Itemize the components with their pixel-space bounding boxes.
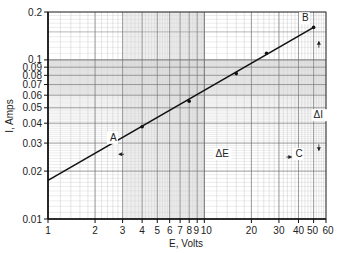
- x-tick-label: 10: [201, 225, 213, 236]
- y-tick-label: 0.06: [23, 90, 43, 101]
- y-axis-ticks: 0.010.020.030.040.050.060.070.080.090.10…: [23, 7, 48, 225]
- y-tick-label: 0.1: [28, 54, 42, 65]
- shaded-band-y: [48, 60, 326, 95]
- x-axis-title: E, Volts: [169, 238, 203, 249]
- shaded-bands: [48, 12, 326, 219]
- x-tick-label: 5: [154, 225, 160, 236]
- x-tick-label: 8: [186, 225, 192, 236]
- data-point: [312, 26, 316, 30]
- x-tick-label: 4: [139, 225, 145, 236]
- data-point: [265, 52, 269, 56]
- x-tick-label: 20: [246, 225, 258, 236]
- annotation-a: A: [110, 132, 117, 143]
- x-tick-label: 7: [177, 225, 183, 236]
- y-tick-label: 0.05: [23, 102, 43, 113]
- annotation-delta-e: ΔE: [215, 148, 229, 159]
- y-tick-label: 0.2: [28, 7, 42, 18]
- x-tick-label: 30: [273, 225, 285, 236]
- y-tick-label: 0.01: [23, 214, 43, 225]
- annotation-c: C: [295, 148, 302, 159]
- x-axis-ticks: 123456789102030405060: [45, 219, 334, 236]
- y-axis-title: I, Amps: [4, 99, 15, 132]
- x-tick-label: 2: [92, 225, 98, 236]
- x-tick-label: 50: [307, 225, 319, 236]
- y-tick-label: 0.03: [23, 138, 43, 149]
- data-point: [187, 99, 191, 103]
- data-point: [234, 72, 238, 76]
- arrow-head-icon: [317, 41, 321, 45]
- x-tick-label: 60: [322, 225, 334, 236]
- y-tick-label: 0.04: [23, 118, 43, 129]
- x-tick-label: 1: [45, 225, 51, 236]
- y-tick-label: 0.02: [23, 166, 43, 177]
- log-log-chart: 123456789102030405060 0.010.020.030.040.…: [0, 0, 340, 253]
- annotation-delta-i: ΔI: [314, 109, 323, 120]
- annotation-b: B: [302, 12, 309, 23]
- x-tick-label: 9: [193, 225, 199, 236]
- x-tick-label: 40: [293, 225, 305, 236]
- data-point: [140, 125, 144, 129]
- x-tick-label: 3: [120, 225, 126, 236]
- shaded-band-x: [123, 12, 205, 219]
- x-tick-label: 6: [167, 225, 173, 236]
- arrow-head-icon: [317, 147, 321, 151]
